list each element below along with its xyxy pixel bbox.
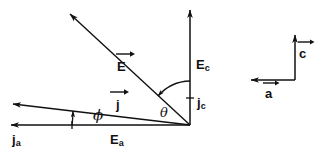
theta-arc — [158, 81, 190, 96]
j-c-label: jc — [197, 94, 206, 111]
vector-phasor-diagram: E j Ec jc Ea ja θ ϕ c a — [0, 0, 319, 155]
e-vector-label: E — [117, 58, 126, 74]
theta-angle-label: θ — [160, 106, 168, 119]
j-vector-label: j — [116, 96, 120, 112]
phi-angle-label: ϕ — [93, 108, 103, 123]
e-c-label: Ec — [196, 56, 210, 73]
e-label-arrow-icon — [116, 51, 135, 57]
j-a-label: ja — [12, 131, 21, 148]
j-label-arrow-icon — [110, 89, 129, 95]
diagram-canvas — [0, 0, 319, 155]
inset-c-label-arrow-icon — [298, 39, 315, 44]
e-vector-line — [70, 14, 190, 125]
inset-a-axis-label: a — [265, 85, 272, 101]
e-a-label: Ea — [110, 131, 124, 148]
inset-c-axis-label: c — [299, 45, 306, 61]
